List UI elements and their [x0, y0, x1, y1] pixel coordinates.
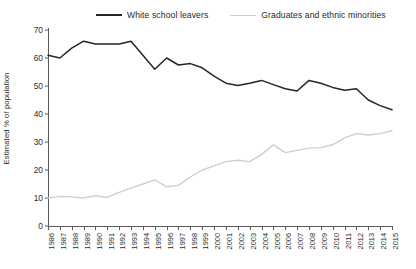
x-axis-tick-mark	[214, 227, 215, 231]
x-axis-tick-label: 1992	[118, 233, 127, 249]
x-axis-tick-mark	[345, 227, 346, 231]
x-axis-tick-label: 2011	[343, 233, 352, 249]
x-axis-tick-label: 2000	[213, 233, 222, 249]
x-axis-tick-mark	[226, 227, 227, 231]
x-axis-tick-mark	[309, 227, 310, 231]
legend-entry-white-school-leavers: White school leavers	[96, 11, 208, 20]
x-axis-tick-label: 2013	[367, 233, 376, 249]
x-axis-tick-mark	[143, 227, 144, 231]
x-axis-tick-mark	[60, 227, 61, 231]
x-axis-tick-mark	[72, 227, 73, 231]
x-axis-tick-label: 2006	[284, 233, 293, 249]
x-axis-tick-mark	[167, 227, 168, 231]
x-axis-tick-mark	[262, 227, 263, 231]
x-axis-tick-label: 1993	[130, 233, 139, 249]
legend-entry-graduates-and-ethnic-minorities: Graduates and ethnic minorities	[230, 11, 385, 20]
plot-area: 010203040506070	[48, 30, 392, 226]
x-axis-tick-mark	[250, 227, 251, 231]
x-axis-tick-label: 2008	[308, 233, 317, 249]
x-axis-tick-label: 1990	[94, 233, 103, 249]
legend-swatch-icon	[230, 15, 256, 16]
x-axis-tick-mark	[380, 227, 381, 231]
series-container	[48, 30, 392, 226]
x-axis-tick-label: 1997	[177, 233, 186, 249]
x-axis-tick-mark	[285, 227, 286, 231]
x-axis-tick-mark	[368, 227, 369, 231]
x-axis-tick-label: 1988	[70, 233, 79, 249]
x-axis-tick-label: 2014	[379, 233, 388, 249]
legend-swatch-icon	[96, 14, 122, 16]
x-axis-tick-mark	[95, 227, 96, 231]
x-axis-tick-label: 2005	[272, 233, 281, 249]
x-axis-tick-label: 2010	[331, 233, 340, 249]
x-axis-tick-label: 2004	[260, 233, 269, 249]
x-axis-tick-label: 2015	[391, 233, 400, 249]
x-axis-tick-label: 1986	[47, 233, 56, 249]
x-axis-tick-mark	[297, 227, 298, 231]
x-axis-tick-mark	[333, 227, 334, 231]
legend-label: Graduates and ethnic minorities	[261, 11, 385, 20]
x-axis-tick-label: 1994	[142, 233, 151, 249]
x-axis-tick-mark	[392, 227, 393, 231]
chart-figure: White school leavers Graduates and ethni…	[0, 0, 416, 269]
chart-legend: White school leavers Graduates and ethni…	[96, 7, 408, 23]
x-axis-tick-mark	[48, 227, 49, 231]
y-axis-title-text: Estimated % of population	[3, 72, 12, 164]
x-axis-tick-label: 2012	[355, 233, 364, 249]
x-axis-tick-mark	[321, 227, 322, 231]
x-axis-tick-label: 2002	[236, 233, 245, 249]
x-axis-tick-mark	[356, 227, 357, 231]
series-line	[48, 131, 392, 198]
y-axis-title: Estimated % of population	[0, 0, 14, 236]
x-axis-tick-label: 1999	[201, 233, 210, 249]
x-axis-tick-mark	[131, 227, 132, 231]
x-axis-tick-mark	[190, 227, 191, 231]
x-axis-tick-label: 1991	[106, 233, 115, 249]
x-axis-tick-mark	[178, 227, 179, 231]
x-axis-tick-mark	[155, 227, 156, 231]
series-line	[48, 41, 392, 110]
x-axis-tick-mark	[119, 227, 120, 231]
x-axis-tick-mark	[273, 227, 274, 231]
x-axis-tick-label: 1998	[189, 233, 198, 249]
x-axis-tick-label: 2007	[296, 233, 305, 249]
x-axis-tick-label: 1987	[59, 233, 68, 249]
x-axis-tick-mark	[107, 227, 108, 231]
x-axis-tick-mark	[84, 227, 85, 231]
x-axis-tick-mark	[238, 227, 239, 231]
legend-label: White school leavers	[127, 11, 208, 20]
x-axis-tick-label: 2001	[225, 233, 234, 249]
x-axis-tick-label: 1989	[82, 233, 91, 249]
x-axis-tick-label: 2003	[248, 233, 257, 249]
x-axis-tick-label: 1996	[165, 233, 174, 249]
x-axis-tick-mark	[202, 227, 203, 231]
x-axis-ticks: 1986198719881989199019911992199319941995…	[48, 227, 393, 269]
x-axis-tick-label: 1995	[153, 233, 162, 249]
x-axis-tick-label: 2009	[320, 233, 329, 249]
